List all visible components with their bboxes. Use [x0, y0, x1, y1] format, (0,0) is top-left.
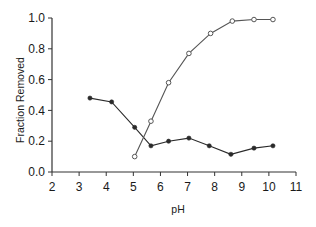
data-point	[110, 100, 114, 104]
y-tick-label: 0.2	[28, 134, 45, 148]
series-line	[90, 98, 273, 154]
data-point	[132, 154, 137, 159]
x-tick-label: 8	[211, 180, 218, 194]
y-tick-label: 0.6	[28, 73, 45, 87]
y-axis-title: Fraction Removed	[14, 57, 26, 143]
y-tick-label: 1.0	[28, 11, 45, 25]
x-axis-title: pH	[171, 203, 184, 215]
x-tick-label: 10	[262, 180, 276, 194]
y-tick-label: 0.8	[28, 42, 45, 56]
x-tick-label: 2	[49, 180, 56, 194]
data-point	[208, 31, 213, 36]
x-tick-label: 5	[130, 180, 137, 194]
series-open-markers	[132, 17, 275, 159]
y-tick-label: 0.4	[28, 104, 45, 118]
y-axis: 0.00.20.40.60.81.0	[28, 11, 52, 179]
data-point	[229, 152, 233, 156]
data-point	[187, 51, 192, 56]
x-tick-label: 4	[103, 180, 110, 194]
series-line	[135, 20, 273, 157]
data-point	[252, 17, 257, 22]
data-point	[149, 119, 154, 124]
data-point	[207, 144, 211, 148]
x-axis: 234567891011	[49, 172, 303, 194]
x-tick-label: 3	[76, 180, 83, 194]
x-tick-label: 6	[157, 180, 164, 194]
data-point	[271, 17, 276, 22]
data-point	[230, 19, 235, 24]
x-tick-label: 11	[290, 180, 303, 194]
data-point	[149, 144, 153, 148]
data-point	[187, 136, 191, 140]
data-point	[88, 96, 92, 100]
y-tick-label: 0.0	[28, 165, 45, 179]
data-point	[133, 125, 137, 129]
series-filled-markers	[88, 96, 275, 156]
data-point	[271, 144, 275, 148]
series-layer	[88, 17, 275, 159]
data-point	[166, 80, 171, 85]
chart-canvas: 0.00.20.40.60.81.0 234567891011 pH Fract…	[0, 0, 316, 227]
data-point	[252, 146, 256, 150]
data-point	[166, 139, 170, 143]
x-tick-label: 7	[184, 180, 191, 194]
x-tick-label: 9	[238, 180, 245, 194]
